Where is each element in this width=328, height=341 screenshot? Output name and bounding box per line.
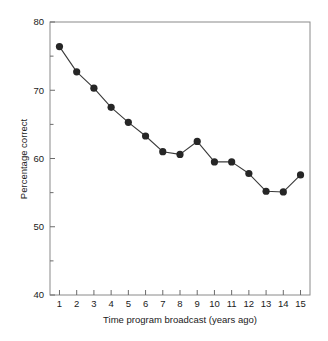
x-tick-label: 2 [74,298,79,309]
data-point [56,43,63,50]
data-point [176,151,183,158]
x-tick-label: 6 [143,298,148,309]
data-point [125,119,132,126]
x-tick-label: 9 [195,298,200,309]
y-tick-label: 60 [33,153,44,164]
chart-background [0,0,328,341]
data-point [211,158,218,165]
data-point [73,68,80,75]
y-tick-label: 80 [33,16,44,27]
x-tick-label: 11 [227,298,237,309]
data-point [90,85,97,92]
chart-figure: 4050607080 123456789101112131415 Percent… [0,0,328,341]
data-point [228,158,235,165]
x-tick-label: 1 [57,298,62,309]
x-tick-label: 3 [91,298,96,309]
x-tick-label: 10 [209,298,220,309]
x-axis-title: Time program broadcast (years ago) [103,314,257,325]
x-axis-tick-labels: 123456789101112131415 [57,298,306,309]
x-tick-label: 15 [295,298,306,309]
x-tick-label: 13 [261,298,272,309]
data-point [245,170,252,177]
x-tick-label: 12 [244,298,255,309]
x-tick-label: 5 [126,298,131,309]
x-tick-label: 4 [108,298,113,309]
x-tick-label: 8 [177,298,182,309]
data-point [142,132,149,139]
x-tick-label: 14 [278,298,289,309]
data-point [297,171,304,178]
y-axis-title: Percentage correct [18,119,29,200]
data-point [194,138,201,145]
y-tick-label: 50 [33,221,44,232]
y-tick-label: 70 [33,85,44,96]
y-tick-label: 40 [33,289,44,300]
data-point [108,104,115,111]
data-point [262,188,269,195]
x-tick-label: 7 [160,298,165,309]
line-chart: 4050607080 123456789101112131415 Percent… [0,0,328,341]
data-point [280,188,287,195]
data-point [159,148,166,155]
